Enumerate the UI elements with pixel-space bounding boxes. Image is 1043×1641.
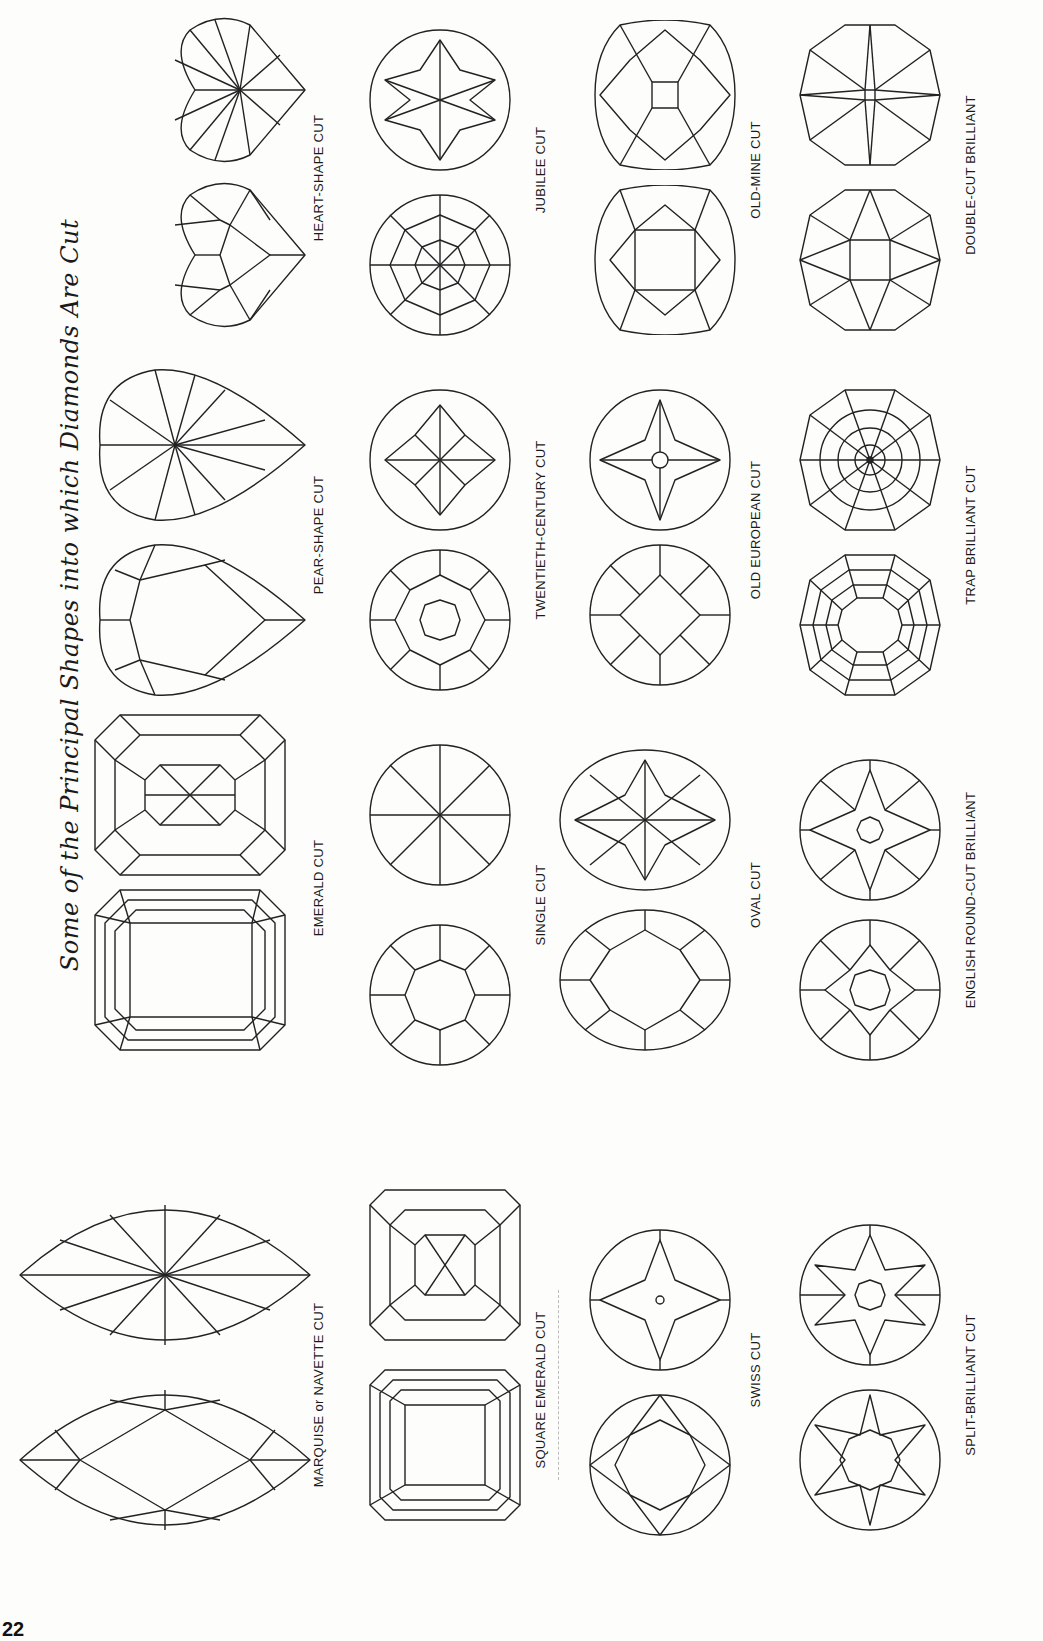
oval-diagram-1: [555, 905, 735, 1055]
oval-diagram-2: [555, 745, 735, 895]
jubilee-diagram-1: [365, 190, 515, 340]
emerald-diagram-2: [90, 710, 290, 880]
cut-label-double-cut-brilliant: DOUBLE-CUT BRILLIANT: [963, 95, 978, 255]
old-european-diagram-2: [585, 385, 735, 535]
double-cut-brilliant-diagram-2: [795, 20, 945, 170]
cut-label-emerald: EMERALD CUT: [311, 840, 326, 936]
marquise-diagram-2: [15, 1185, 315, 1365]
trap-brilliant-diagram-1: [795, 550, 945, 700]
cut-label-old-mine: OLD-MINE CUT: [748, 121, 763, 219]
swiss-diagram-2: [585, 1225, 735, 1375]
cut-label-square-emerald: SQUARE EMERALD CUT: [533, 1311, 548, 1468]
cut-label-single: SINGLE CUT: [533, 864, 548, 945]
single-diagram-1: [365, 920, 515, 1070]
split-brilliant-diagram-2: [795, 1220, 945, 1370]
cut-label-oval: OVAL CUT: [748, 862, 763, 928]
heart-shape-diagram-1: [150, 180, 310, 330]
cut-label-trap-brilliant: TRAP BRILLIANT CUT: [963, 465, 978, 604]
cut-label-twentieth-century: TWENTIETH-CENTURY CUT: [533, 440, 548, 619]
cut-label-english-round-cut-brilliant: ENGLISH ROUND-CUT BRILLIANT: [963, 792, 978, 1009]
page-number: 22: [2, 1618, 24, 1641]
twentieth-century-diagram-1: [365, 545, 515, 695]
emerald-diagram-1: [90, 885, 290, 1055]
jubilee-diagram-2: [365, 25, 515, 175]
marquise-diagram-1: [15, 1370, 315, 1550]
double-cut-brilliant-diagram-1: [795, 185, 945, 335]
cut-label-old-european: OLD EUROPEAN CUT: [748, 461, 763, 599]
old-european-diagram-1: [585, 540, 735, 690]
cut-label-pear-shape: PEAR-SHAPE CUT: [311, 476, 326, 594]
cut-label-marquise-navette: MARQUISE or NAVETTE CUT: [311, 1303, 326, 1487]
book-page: Some of the Principal Shapes into which …: [0, 0, 1043, 1641]
english-round-cut-brilliant-diagram-2: [795, 755, 945, 905]
square-emerald-diagram-1: [365, 1365, 525, 1525]
cut-label-split-brilliant: SPLIT-BRILLIANT CUT: [963, 1314, 978, 1455]
heart-shape-diagram-2: [150, 15, 310, 165]
old-mine-diagram-1: [590, 185, 740, 335]
old-mine-diagram-2: [590, 20, 740, 170]
split-brilliant-diagram-1: [795, 1385, 945, 1535]
single-diagram-2: [365, 740, 515, 890]
english-round-cut-brilliant-diagram-1: [795, 915, 945, 1065]
pear-shape-diagram-1: [95, 540, 310, 700]
cut-label-swiss: SWISS CUT: [748, 1333, 763, 1408]
swiss-diagram-1: [585, 1390, 735, 1540]
cut-label-jubilee: JUBILEE CUT: [533, 127, 548, 213]
page-fold-artifact: [558, 1290, 559, 1480]
trap-brilliant-diagram-2: [795, 385, 945, 535]
twentieth-century-diagram-2: [365, 385, 515, 535]
cut-label-heart-shape: HEART-SHAPE CUT: [311, 115, 326, 241]
square-emerald-diagram-2: [365, 1185, 525, 1345]
pear-shape-diagram-2: [95, 365, 310, 525]
page-title: Some of the Principal Shapes into which …: [56, 219, 84, 971]
